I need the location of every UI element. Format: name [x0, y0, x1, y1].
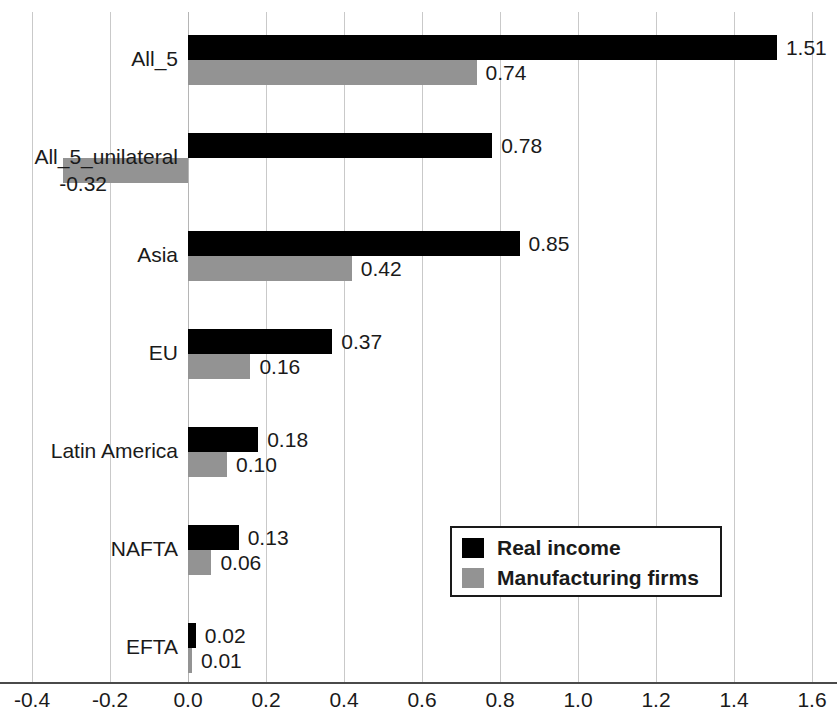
x-tick-label: -0.2: [92, 688, 128, 712]
category-label: All_5: [131, 47, 178, 71]
x-axis-line: [0, 682, 837, 684]
category-label: NAFTA: [111, 537, 178, 561]
x-tick-label: 0.4: [329, 688, 358, 712]
gridline: [422, 12, 423, 682]
bar-value-label: 1.51: [786, 36, 827, 60]
bar-value-label: 0.37: [341, 330, 382, 354]
legend-item-real-income: Real income: [462, 533, 720, 563]
bar-value-label: 0.13: [248, 526, 289, 550]
bar-value-label: 0.10: [236, 453, 277, 477]
bar-value-label: 0.18: [267, 428, 308, 452]
category-label: All_5_unilateral: [34, 145, 178, 169]
bar-real-income: [188, 329, 332, 354]
gridline: [110, 12, 111, 682]
bar-real-income: [188, 231, 520, 256]
bar-real-income: [188, 35, 777, 60]
category-label: EFTA: [126, 635, 178, 659]
bar-manufacturing-firms: [188, 550, 211, 575]
bar-manufacturing-firms: [188, 452, 227, 477]
bar-real-income: [188, 623, 196, 648]
bar-value-label: 0.06: [220, 551, 261, 575]
bar-value-label: 0.42: [361, 257, 402, 281]
bar-value-label: -0.32: [59, 172, 107, 196]
bar-real-income: [188, 525, 239, 550]
bar-value-label: 0.78: [501, 134, 542, 158]
legend-swatch-icon: [462, 538, 484, 558]
bar-chart: 1.510.74All_50.78-0.32All_5_unilateral0.…: [0, 0, 837, 725]
category-label: EU: [149, 341, 178, 365]
x-tick-label: 0.2: [251, 688, 280, 712]
legend: Real income Manufacturing firms: [450, 526, 722, 597]
bar-value-label: 0.01: [201, 649, 242, 673]
bar-manufacturing-firms: [188, 354, 250, 379]
legend-swatch-icon: [462, 568, 484, 588]
bar-real-income: [188, 133, 492, 158]
bar-value-label: 0.85: [529, 232, 570, 256]
x-tick-label: 1.4: [719, 688, 748, 712]
category-label: Latin America: [51, 439, 178, 463]
legend-item-manufacturing-firms: Manufacturing firms: [462, 563, 720, 593]
legend-label: Manufacturing firms: [497, 566, 699, 590]
x-tick-label: 1.0: [563, 688, 592, 712]
x-tick-label: 0.6: [407, 688, 436, 712]
x-tick-label: -0.4: [14, 688, 50, 712]
x-tick-label: 1.6: [797, 688, 826, 712]
bar-value-label: 0.74: [486, 61, 527, 85]
x-tick-label: 0.8: [485, 688, 514, 712]
bar-value-label: 0.02: [205, 624, 246, 648]
gridline: [734, 12, 735, 682]
legend-label: Real income: [497, 536, 621, 560]
bar-manufacturing-firms: [188, 648, 192, 673]
x-tick-label: 0.0: [173, 688, 202, 712]
x-tick-label: 1.2: [641, 688, 670, 712]
bar-value-label: 0.16: [259, 355, 300, 379]
gridline: [32, 12, 33, 682]
bar-manufacturing-firms: [188, 256, 352, 281]
gridline: [812, 12, 813, 682]
bar-manufacturing-firms: [188, 60, 477, 85]
category-label: Asia: [137, 243, 178, 267]
bar-real-income: [188, 427, 258, 452]
